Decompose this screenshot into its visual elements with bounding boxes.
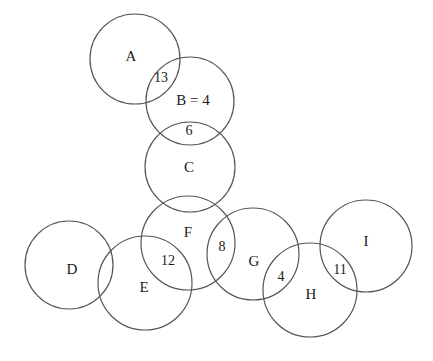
circles-group: [25, 14, 412, 337]
node-circle-b[interactable]: [146, 57, 234, 145]
node-circle-c[interactable]: [145, 122, 235, 212]
node-circle-g[interactable]: [207, 208, 299, 300]
node-circle-a[interactable]: [90, 14, 180, 104]
circle-diagram: AB = 4CDEFGHI136812411: [0, 0, 433, 361]
circle-canvas: [0, 0, 433, 361]
node-circle-i[interactable]: [320, 200, 412, 292]
node-circle-e[interactable]: [98, 236, 192, 330]
node-circle-h[interactable]: [263, 243, 357, 337]
node-circle-f[interactable]: [141, 196, 235, 290]
